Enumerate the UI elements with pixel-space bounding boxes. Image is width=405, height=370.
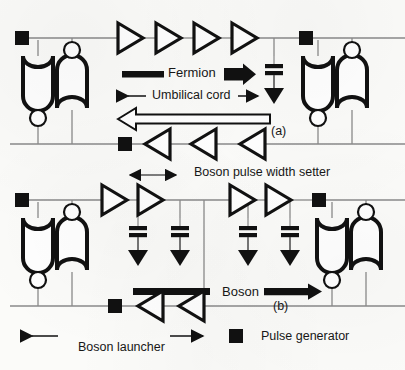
figure-canvas: Fermion Umbilical cord (a) Boson pulse w… [0,0,405,370]
panel-a-buffer-3 [194,23,219,53]
label-panel-a: (a) [271,125,286,138]
panel-b-capacitor-ground-3 [238,218,258,266]
panel-b-buffer-left-1 [138,291,163,321]
fermion-arrow [224,64,256,86]
panel-a-nand-gate-left [23,56,53,126]
panel-a-buffer-1 [118,23,143,53]
panel-a-nor-gate-left [57,42,87,108]
panel-a-nor-gate-right [337,42,367,108]
panel-b-nand-gate-right [317,218,347,288]
label-boson: Boson [222,285,259,298]
panel-b-buffer-3 [230,185,255,215]
panel-b-nor-gate-left [57,204,87,270]
panel-b-capacitor-ground-4 [280,218,300,266]
panel-b-pulse-generator-bottom [108,299,122,313]
panel-a-buffer-left-1 [145,129,170,159]
panel-a-capacitor-ground [264,56,284,104]
legend-pulse-generator-label: Pulse generator [261,330,349,343]
fermion-bar [122,71,164,78]
panel-b-buffer-left-2 [179,291,204,321]
label-umbilical-cord: Umbilical cord [152,89,231,102]
panel-a-hollow-return-arrow [118,108,270,130]
circuit-diagram [0,0,405,370]
label-fermion: Fermion [168,66,216,79]
label-boson-launcher: Boson launcher [78,341,165,354]
panel-a-pulse-generator-left [15,31,29,45]
panel-b-capacitor-ground-2 [170,218,190,266]
panel-a-buffer-left-2 [191,129,216,159]
panel-b-nand-gate-left [23,218,53,288]
label-panel-b: (b) [273,300,288,313]
panel-a-nand-gate-right [303,56,333,126]
panel-a-buffer-left-3 [240,129,265,159]
panel-b-pulse-generator-right [312,193,326,207]
panel-b-buffer-1 [102,185,127,215]
panel-b-nor-gate-right [351,204,381,270]
legend-pulse-generator-icon [229,329,243,343]
label-boson-pulse-width-setter: Boson pulse width setter [194,166,330,179]
panel-b-capacitor-ground-1 [128,218,148,266]
panel-a-buffer-2 [156,23,181,53]
panel-b [10,185,405,321]
panel-a-buffer-4 [232,23,257,53]
panel-a-pulse-generator-right [299,31,313,45]
panel-a-pulse-generator-bottom [118,137,132,151]
panel-b-pulse-generator-left [15,193,29,207]
panel-b-buffer-4 [266,185,291,215]
boson-arrow [264,284,322,300]
panel-b-buffer-2 [138,185,163,215]
